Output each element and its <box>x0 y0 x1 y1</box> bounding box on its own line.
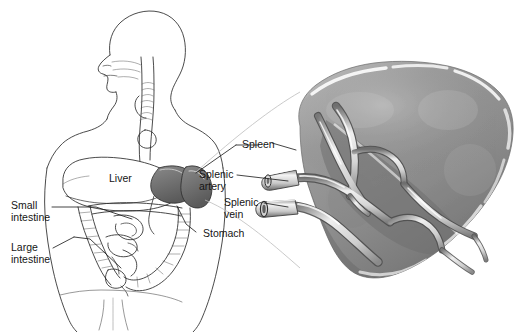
label-splenic-vein-line1: Splenic <box>224 196 258 208</box>
small-intestine-coil-1 <box>114 215 143 240</box>
lower-oral-line <box>118 77 138 79</box>
leader-stomach <box>177 206 196 232</box>
anatomy-figure <box>0 0 532 332</box>
splenic-vein-stub <box>256 200 298 217</box>
face-profile <box>98 55 116 92</box>
label-large-intestine: Largeintestine <box>11 242 50 265</box>
label-spleen: Spleen <box>242 139 275 151</box>
chin-jaw <box>107 92 117 119</box>
label-splenic-artery-line2: artery <box>199 180 226 192</box>
palate-line <box>112 61 141 65</box>
small-intestine-coil-3 <box>106 235 137 257</box>
vessel-twig-1 <box>442 250 472 272</box>
esophagus-right-wall <box>150 57 154 160</box>
small-intestine-coil-5 <box>123 250 137 276</box>
splenic-vein-lumen <box>262 205 265 213</box>
leader-spleen-right <box>272 143 296 150</box>
spleen-magnified-detail <box>256 61 513 281</box>
label-splenic-artery: Splenicartery <box>199 169 233 192</box>
label-splenic-vein: Splenicvein <box>224 197 258 220</box>
label-liver: Liver <box>109 173 132 185</box>
label-small-intestine-line1: Small <box>11 199 37 211</box>
label-large-intestine-line1: Large <box>11 241 38 253</box>
descending-colon-outer <box>126 208 190 291</box>
label-small-intestine-line2: intestine <box>11 211 50 223</box>
groin-left <box>99 300 104 330</box>
leader-large-intestine-hook <box>53 237 74 248</box>
cardia-junction <box>138 130 156 148</box>
esophagus-left-wall <box>139 57 142 163</box>
small-intestine-coil-2 <box>121 223 136 236</box>
pelvic-brim <box>60 290 182 302</box>
nose-line <box>103 65 111 66</box>
descending-colon-haustra <box>137 214 190 287</box>
transverse-colon-bottom <box>92 211 181 216</box>
head-outline <box>109 11 185 110</box>
label-small-intestine: Smallintestine <box>11 200 50 223</box>
label-splenic-artery-line1: Splenic <box>199 168 233 180</box>
groin-right <box>122 300 128 330</box>
label-large-intestine-line2: intestine <box>11 253 50 265</box>
splenic-artery-stub <box>262 169 299 190</box>
label-stomach: Stomach <box>203 228 244 240</box>
mouth-line <box>104 75 117 76</box>
descending-colon-inner <box>124 207 178 280</box>
magnifier-upper-guide <box>196 92 300 172</box>
label-splenic-vein-line2: vein <box>224 208 243 220</box>
tongue-line <box>113 69 140 72</box>
